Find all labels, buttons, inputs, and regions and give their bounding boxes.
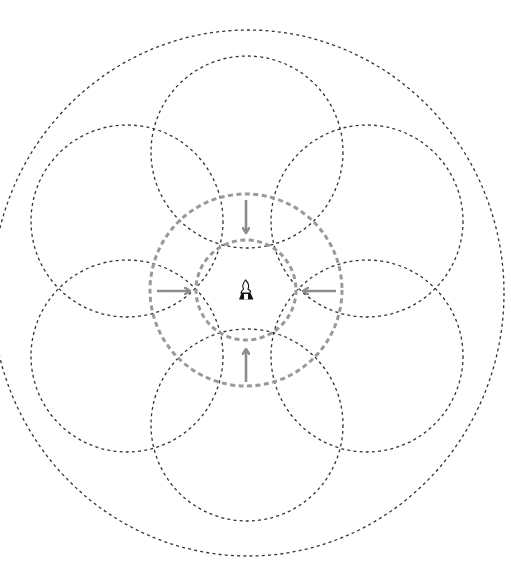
outer-boundary-circle bbox=[0, 30, 504, 556]
petal-circle-upper-left bbox=[31, 125, 223, 317]
seated-figure-icon bbox=[239, 280, 254, 300]
diagram-canvas bbox=[0, 0, 511, 574]
petal-circle-upper-right bbox=[271, 125, 463, 317]
